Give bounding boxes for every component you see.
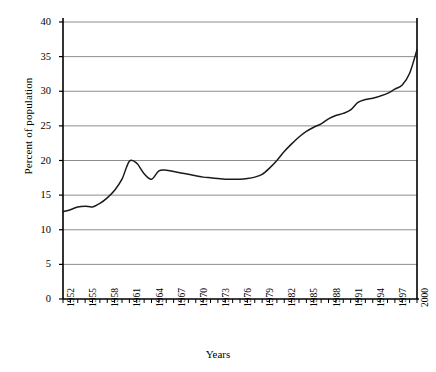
x-tick-label: 1952 bbox=[67, 288, 77, 307]
y-tick-label: 40 bbox=[25, 17, 51, 28]
y-tick-label: 15 bbox=[25, 190, 51, 201]
x-tick-label: 1988 bbox=[333, 288, 343, 307]
x-tick-label: 1964 bbox=[156, 288, 166, 307]
x-tick-label: 1955 bbox=[89, 288, 99, 307]
y-tick-label: 25 bbox=[25, 121, 51, 132]
y-tick-label: 10 bbox=[25, 225, 51, 236]
chart-figure: Percent of population Years 051015202530… bbox=[0, 0, 436, 372]
x-tick-label: 1961 bbox=[133, 288, 143, 307]
x-tick-label: 1994 bbox=[377, 288, 387, 307]
x-axis-title: Years bbox=[0, 348, 436, 360]
x-tick-label: 1967 bbox=[178, 288, 188, 307]
x-tick-label: 1982 bbox=[288, 288, 298, 307]
x-tick-label: 1985 bbox=[310, 288, 320, 307]
x-tick-label: 1979 bbox=[266, 288, 276, 307]
y-tick-label: 5 bbox=[25, 259, 51, 270]
x-tick-label: 1991 bbox=[355, 288, 365, 307]
y-tick-label: 35 bbox=[25, 52, 51, 63]
y-tick-label: 20 bbox=[25, 156, 51, 167]
x-tick-label: 2000 bbox=[421, 288, 431, 307]
y-tick-label: 0 bbox=[25, 294, 51, 305]
x-tick-label: 1976 bbox=[244, 288, 254, 307]
x-tick-label: 1973 bbox=[222, 288, 232, 307]
plot-area bbox=[0, 0, 436, 372]
y-tick-label: 30 bbox=[25, 86, 51, 97]
x-tick-label: 1958 bbox=[111, 288, 121, 307]
x-tick-label: 1997 bbox=[399, 288, 409, 307]
data-series-line bbox=[63, 50, 417, 212]
gridlines bbox=[63, 22, 417, 264]
x-tick-label: 1970 bbox=[200, 288, 210, 307]
